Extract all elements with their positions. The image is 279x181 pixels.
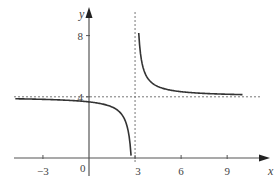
x-axis-label: x <box>267 164 274 178</box>
x-tick-label: 9 <box>224 165 230 177</box>
rational-function-graph: −336948 x y 0 <box>0 0 279 181</box>
axes <box>14 7 270 176</box>
origin-label: 0 <box>80 162 86 174</box>
x-axis-arrow-icon <box>259 155 270 162</box>
x-tick-label: 6 <box>178 165 184 177</box>
x-tick-label: 3 <box>135 165 141 177</box>
ticks: −336948 <box>37 30 230 177</box>
x-tick-label: −3 <box>37 165 49 177</box>
curves <box>15 33 242 156</box>
y-tick-label: 8 <box>78 30 84 42</box>
y-axis-arrow-icon <box>86 7 93 18</box>
curve-right-branch <box>139 33 243 95</box>
y-axis-label: y <box>78 7 85 21</box>
curve-left-branch <box>15 99 131 156</box>
asymptotes <box>14 12 262 162</box>
